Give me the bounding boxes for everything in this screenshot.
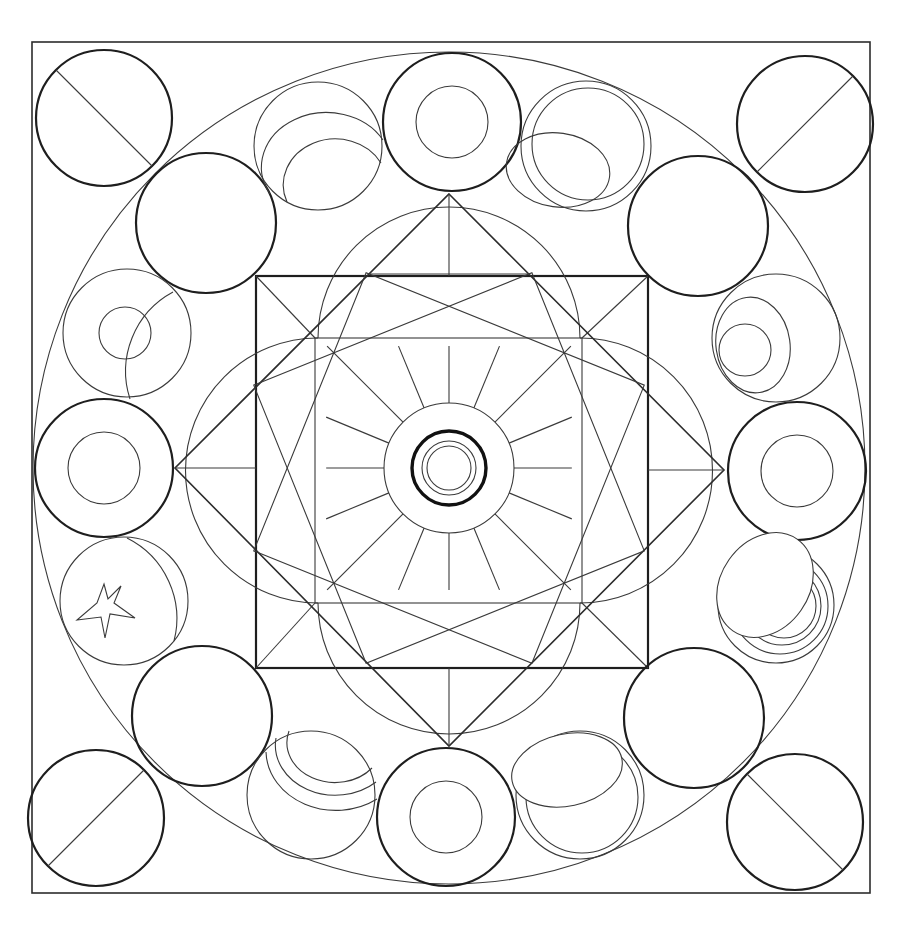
hub-spoke [326, 493, 389, 519]
axis-ring-top [383, 53, 521, 191]
diagonal-circle-lower-left [132, 646, 272, 786]
hub-spoke [399, 528, 425, 590]
decor-circle-bottom-right-ellipse [505, 723, 644, 859]
mandala-drawing [0, 0, 918, 942]
star-icon [77, 584, 135, 638]
decor-circle-bottom-left-arcs [247, 731, 377, 859]
decor-circle-right-upper-eye [710, 274, 840, 402]
hub-spoke [327, 346, 403, 422]
hub-spoke [495, 346, 571, 422]
hub-spoke [495, 514, 571, 590]
axis-ring-left [35, 399, 173, 537]
corner-circle-bottom-right [727, 754, 863, 890]
decor-circle-top-right-ellipse [501, 81, 651, 214]
diagonal-circle-upper-left [136, 153, 276, 293]
hub-spoke [509, 417, 572, 443]
hub-ring [384, 403, 514, 533]
decor-circle-left-lower-star [60, 537, 188, 665]
diagonal-circle-lower-right [624, 648, 764, 788]
decor-circle-right-lower-rings [697, 514, 834, 663]
decor-circle-left-upper-eye [63, 269, 191, 399]
axis-ring-bottom [377, 748, 515, 886]
hub-spoke [326, 417, 389, 443]
decor-circle-top-left-arcs [254, 82, 383, 210]
hub-spoke [474, 528, 500, 590]
corner-circle-bottom-left [28, 750, 164, 886]
hub-spoke [474, 346, 500, 408]
axis-ring-right [728, 402, 866, 540]
diagonal-circle-upper-right [628, 156, 768, 296]
hub-spoke [399, 346, 425, 408]
corner-circle-top-left [36, 50, 172, 186]
hub-spoke [327, 514, 403, 590]
hub-spoke [509, 493, 572, 519]
corner-circle-top-right [737, 56, 873, 192]
mandala-canvas [0, 0, 918, 942]
